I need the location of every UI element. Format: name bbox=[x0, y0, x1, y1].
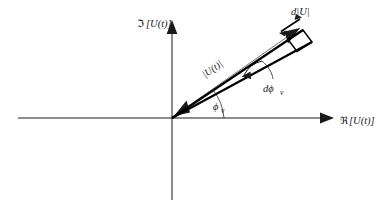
phasor-vector-upper bbox=[172, 30, 303, 118]
phasor-diagram-canvas: ℑ [U(t)] ℜ [U(t)] |U(t)| d|U| bbox=[0, 0, 388, 214]
imaginary-axis-group bbox=[167, 20, 178, 200]
d-phase-label-subscript: v bbox=[280, 88, 284, 97]
imaginary-axis-label-argument: [U(t)] bbox=[146, 18, 172, 30]
phase-label-main: ϕ bbox=[213, 101, 219, 112]
phasor-vector-lower bbox=[172, 42, 312, 118]
real-axis-operator-symbol: ℜ bbox=[340, 115, 349, 126]
real-axis-label-group: ℜ [U(t)] bbox=[340, 115, 375, 127]
d-phase-label-group: dϕ v bbox=[263, 83, 284, 97]
imaginary-axis-operator-symbol: ℑ bbox=[137, 18, 144, 29]
real-axis-arrowhead-icon bbox=[320, 113, 334, 124]
imaginary-axis-label-group: ℑ [U(t)] bbox=[137, 18, 172, 30]
phase-label-group: ϕ v bbox=[213, 101, 225, 115]
phase-label-subscript: v bbox=[221, 106, 225, 115]
d-phase-label-main: dϕ bbox=[263, 83, 274, 94]
phasor-diagram-figure: ℑ [U(t)] ℜ [U(t)] |U(t)| d|U| bbox=[0, 0, 388, 214]
real-axis-label-argument: [U(t)] bbox=[349, 115, 375, 127]
magnitude-label: |U(t)| bbox=[200, 58, 225, 81]
d-phase-arc-group bbox=[242, 61, 274, 79]
d-magnitude-arrowhead-lower-icon bbox=[279, 31, 287, 37]
d-magnitude-label: d|U| bbox=[291, 6, 310, 17]
